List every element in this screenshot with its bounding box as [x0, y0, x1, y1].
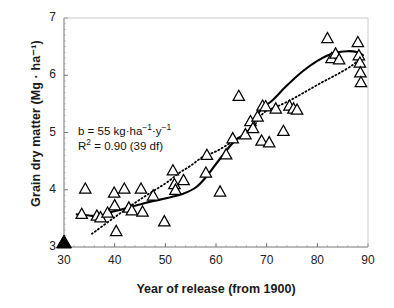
data-point-triangle	[167, 165, 178, 175]
data-point-triangle	[233, 90, 244, 100]
regression-annotation: b = 55 kg·ha−1·y−1 R2 = 0.90 (39 df)	[78, 124, 171, 154]
y-tick-label: 7	[42, 10, 56, 24]
data-point-triangle	[352, 36, 363, 46]
data-point-triangle	[147, 190, 158, 200]
data-point-triangle	[110, 225, 121, 235]
y-tick-label: 3	[42, 239, 56, 253]
x-tick-label: 80	[305, 253, 329, 267]
annotation-r-squared: R2 = 0.90 (39 df)	[78, 139, 171, 154]
x-axis-label: Year of release (from 1900)	[64, 282, 368, 296]
data-point-triangle	[220, 149, 231, 159]
data-point-triangle	[278, 125, 289, 135]
data-point-triangle	[108, 187, 119, 197]
y-tick-label: 5	[42, 125, 56, 139]
x-tick-label: 60	[204, 253, 228, 267]
annotation-slope: b = 55 kg·ha−1·y−1	[78, 124, 171, 139]
data-point-triangle	[80, 183, 91, 193]
y-axis-label: Grain dry matter (Mg · ha⁻¹)	[28, 9, 43, 239]
x-tick-label: 90	[356, 253, 380, 267]
data-point-triangle	[178, 174, 189, 184]
data-point-triangle	[355, 67, 366, 77]
data-point-triangle	[355, 77, 366, 87]
data-point-triangle	[76, 208, 87, 218]
filled-triangle-origin-marker	[57, 235, 72, 248]
data-point-triangle	[322, 32, 333, 42]
x-tick-label: 70	[255, 253, 279, 267]
data-point-triangle	[119, 183, 130, 193]
y-tick-label: 4	[42, 182, 56, 196]
data-point-triangle	[135, 183, 146, 193]
x-tick-label: 30	[52, 253, 76, 267]
data-point-triangle	[252, 111, 263, 121]
chart-figure: Grain dry matter (Mg · ha⁻¹) Year of rel…	[0, 0, 394, 308]
filled-triangle-origin	[57, 235, 72, 248]
data-point-triangle	[201, 149, 212, 159]
x-tick-label: 40	[103, 253, 127, 267]
data-point-triangle	[159, 216, 170, 226]
data-point-triangle	[109, 200, 120, 210]
data-point-triangle	[137, 206, 148, 216]
data-point-triangle	[214, 186, 225, 196]
x-tick-label: 50	[153, 253, 177, 267]
y-tick-label: 6	[42, 67, 56, 81]
